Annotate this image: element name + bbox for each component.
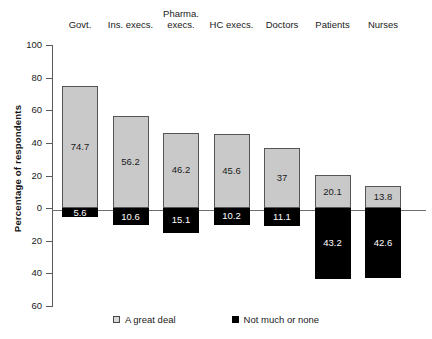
bar-segment-great-deal: 74.7 <box>62 86 98 208</box>
bar-value-label: 20.1 <box>316 187 350 197</box>
bar-value-label: 74.7 <box>63 142 97 152</box>
y-axis-tick-label: 20 <box>0 171 42 181</box>
legend-item-not-much-or-none: Not much or none <box>232 314 320 325</box>
legend-swatch-icon-not-much-or-none <box>232 316 239 323</box>
legend-item-great-deal: A great deal <box>113 314 176 325</box>
legend-label-great-deal: A great deal <box>125 314 176 325</box>
y-axis-tick <box>46 208 53 209</box>
y-axis-tick-label: 40 <box>0 268 42 278</box>
bar-value-label: 5.6 <box>63 208 97 218</box>
y-axis-tick <box>46 306 53 307</box>
bar-value-label: 13.8 <box>366 192 400 202</box>
bar-segment-great-deal: 45.6 <box>214 134 250 208</box>
bar-value-label: 10.6 <box>114 212 148 222</box>
bar-segment-great-deal: 13.8 <box>365 186 401 209</box>
y-axis-tick <box>46 241 53 242</box>
bar-segment-not-much-or-none: 15.1 <box>163 208 199 233</box>
bar-value-label: 11.1 <box>265 212 299 222</box>
bar-segment-not-much-or-none: 10.2 <box>214 208 250 225</box>
bar-value-label: 43.2 <box>316 239 350 249</box>
y-axis-tick-label: 60 <box>0 105 42 115</box>
y-axis-tick <box>46 176 53 177</box>
bar-value-label: 46.2 <box>164 166 198 176</box>
bar-segment-great-deal: 56.2 <box>113 116 149 208</box>
bar-segment-great-deal: 20.1 <box>315 175 351 208</box>
bar-value-label: 45.6 <box>215 166 249 176</box>
y-axis-tick-label: 80 <box>0 73 42 83</box>
bar-segment-not-much-or-none: 43.2 <box>315 208 351 278</box>
bar-segment-great-deal: 46.2 <box>163 133 199 208</box>
bar-value-label: 56.2 <box>114 158 148 168</box>
category-header: Nurses <box>348 19 418 30</box>
bar-value-label: 37 <box>265 173 299 183</box>
y-axis-tick <box>46 110 53 111</box>
bar-value-label: 15.1 <box>164 216 198 226</box>
y-axis-tick <box>46 45 53 46</box>
bar-segment-not-much-or-none: 42.6 <box>365 208 401 277</box>
y-axis-tick-label: 0 <box>0 203 42 213</box>
bar-segment-not-much-or-none: 10.6 <box>113 208 149 225</box>
y-axis-tick-label: 100 <box>0 40 42 50</box>
y-axis-tick <box>46 273 53 274</box>
chart-legend: A great deal Not much or none <box>0 314 432 325</box>
legend-label-not-much-or-none: Not much or none <box>244 314 320 325</box>
bar-value-label: 10.2 <box>215 212 249 222</box>
bar-segment-great-deal: 37 <box>264 148 300 208</box>
y-axis-tick-label: 20 <box>0 236 42 246</box>
y-axis-tick <box>46 78 53 79</box>
legend-swatch-icon-great-deal <box>113 316 120 323</box>
bar-segment-not-much-or-none: 5.6 <box>62 208 98 217</box>
bar-chart: Percentage of respondents 10080604020020… <box>0 0 432 339</box>
y-axis-tick-label: 60 <box>0 301 42 311</box>
bar-value-label: 42.6 <box>366 238 400 248</box>
y-axis-tick-label: 40 <box>0 138 42 148</box>
bar-segment-not-much-or-none: 11.1 <box>264 208 300 226</box>
y-axis-tick <box>46 143 53 144</box>
